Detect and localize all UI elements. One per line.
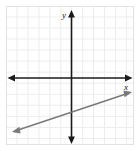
line-arrow-lower-left-icon: [12, 127, 21, 134]
x-axis-label: x: [124, 83, 128, 92]
axes-and-line-layer: [0, 0, 140, 151]
x-axis-arrow-right-icon: [125, 75, 133, 82]
coordinate-plane-figure: y x: [0, 0, 140, 151]
y-axis-arrow-down-icon: [68, 137, 75, 145]
y-axis-label: y: [62, 11, 66, 20]
x-axis: [8, 75, 133, 82]
x-axis-arrow-left-icon: [8, 75, 16, 82]
y-axis: [68, 10, 75, 144]
y-axis-arrow-up-icon: [68, 10, 75, 18]
